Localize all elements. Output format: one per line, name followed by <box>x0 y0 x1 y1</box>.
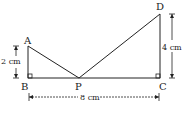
right-angle-c-icon <box>156 74 160 78</box>
segment-pd <box>79 14 160 78</box>
geometry-diagram: 2 cm 4 cm 8 cm A B P C D <box>0 0 187 115</box>
label-point-b: B <box>21 81 28 92</box>
label-ab-length: 2 cm <box>1 57 21 66</box>
label-point-d: D <box>156 1 164 12</box>
label-point-a: A <box>23 35 32 46</box>
label-point-p: P <box>75 81 82 92</box>
right-angle-b-icon <box>28 74 32 78</box>
label-point-c: C <box>159 81 167 92</box>
segment-ap <box>28 46 79 78</box>
label-dc-length: 4 cm <box>162 43 182 52</box>
label-bc-length: 8 cm <box>80 93 100 102</box>
